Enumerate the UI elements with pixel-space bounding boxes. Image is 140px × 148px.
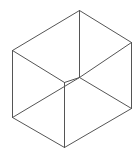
cube-diagram	[0, 0, 140, 148]
cube-edge-top-to-top-right	[80, 11, 132, 43]
cube-edge-top-left-to-front	[13, 51, 65, 83]
wireframe-cube	[0, 0, 140, 148]
cube-edge-bottom-left-to-inner	[13, 78, 80, 118]
cube-edge-bottom-left-to-bottom	[13, 118, 65, 148]
cube-edge-top-right-to-inner	[80, 43, 132, 78]
cube-edge-bottom-to-bottom-right	[65, 109, 132, 148]
cube-edge-inner-to-bottom-right	[80, 78, 132, 109]
cube-edge-top-to-top-left	[13, 11, 80, 51]
